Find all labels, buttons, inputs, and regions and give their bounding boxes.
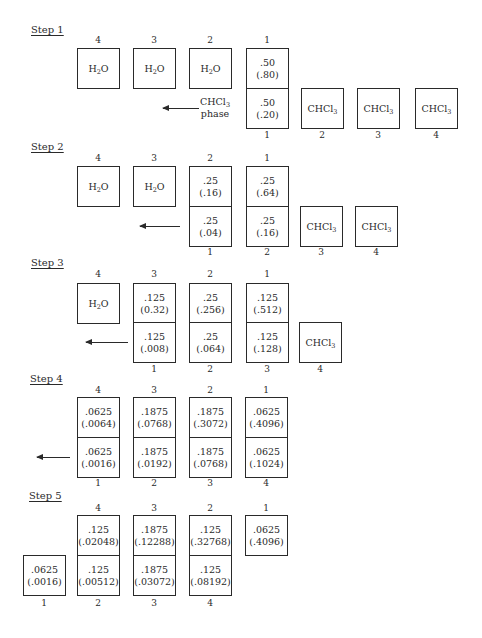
fraction-value: .0625 <box>85 406 112 418</box>
upper-phase-cell: .50(.80) <box>246 48 289 89</box>
tube-number-bottom: 4 <box>310 364 330 374</box>
weighted-value: (.20) <box>256 109 279 121</box>
solvent-name: H2O <box>88 181 108 193</box>
tube-number-bottom: 1 <box>34 598 54 608</box>
lower-phase-cell: .25(.04) <box>189 206 232 247</box>
weighted-value: (.04) <box>199 227 222 239</box>
tube-number-top: 4 <box>88 269 108 279</box>
weighted-value: (.0016) <box>81 458 116 470</box>
tube-number-bottom: 4 <box>366 247 386 257</box>
lower-phase-cell: .1875(.0768) <box>189 437 232 478</box>
fraction-value: .1875 <box>141 406 168 418</box>
weighted-value: (0.32) <box>140 304 169 316</box>
step-label: Step 1 <box>31 24 64 35</box>
fraction-value: .0625 <box>85 446 112 458</box>
upper-phase-cell: .0625(.0064) <box>77 397 120 438</box>
fraction-value: .125 <box>200 564 221 576</box>
tube-number-bottom: 2 <box>144 478 164 488</box>
lower-phase-cell: CHCl3 <box>357 88 400 129</box>
tube-number-bottom: 4 <box>256 478 276 488</box>
fraction-value: .125 <box>88 524 109 536</box>
tube-number-top: 1 <box>257 35 277 45</box>
weighted-value: (.03072) <box>134 576 175 588</box>
tube-number-top: 3 <box>144 35 164 45</box>
upper-phase-cell: .25(.16) <box>189 166 232 207</box>
lower-phase-cell: CHCl3 <box>301 88 344 129</box>
lower-phase-cell: .50(.20) <box>246 88 289 129</box>
tube-number-top: 1 <box>256 385 276 395</box>
upper-phase-cell: H2O <box>133 166 176 207</box>
upper-phase-cell: H2O <box>77 283 120 324</box>
weighted-value: (.0768) <box>193 458 228 470</box>
lower-phase-cell: .25(.064) <box>189 322 232 363</box>
upper-phase-cell: H2O <box>133 48 176 89</box>
lower-phase-cell: .0625(.0016) <box>77 437 120 478</box>
upper-phase-cell: .25(.256) <box>189 283 232 324</box>
fraction-value: .0625 <box>253 524 280 536</box>
fraction-value: .1875 <box>197 406 224 418</box>
tube-number-top: 4 <box>88 385 108 395</box>
solvent-name: CHCl3 <box>305 337 335 349</box>
weighted-value: (.4096) <box>249 418 284 430</box>
fraction-value: .125 <box>257 331 278 343</box>
tube-number-bottom: 2 <box>200 364 220 374</box>
solvent-name: H2O <box>144 63 164 75</box>
upper-phase-cell: .25(.64) <box>246 166 289 207</box>
lower-phase-cell: .1875(.0192) <box>133 437 176 478</box>
weighted-value: (.256) <box>196 304 225 316</box>
lower-phase-cell: CHCl3 <box>299 322 342 363</box>
fraction-value: .0625 <box>253 446 280 458</box>
solvent-name: CHCl3 <box>306 221 336 233</box>
tube-number-top: 1 <box>257 153 277 163</box>
step-label: Step 3 <box>31 257 64 268</box>
fraction-value: .125 <box>200 524 221 536</box>
upper-phase-cell: .0625(.4096) <box>245 397 288 438</box>
fraction-value: .25 <box>203 175 218 187</box>
weighted-value: (.0016) <box>27 576 62 588</box>
fraction-value: .1875 <box>141 524 168 536</box>
tube-number-top: 3 <box>144 385 164 395</box>
weighted-value: (.4096) <box>249 536 284 548</box>
solvent-name: H2O <box>200 63 220 75</box>
tube-number-bottom: 3 <box>144 598 164 608</box>
tube-number-top: 2 <box>200 269 220 279</box>
weighted-value: (.0064) <box>81 418 116 430</box>
upper-phase-cell: H2O <box>189 48 232 89</box>
tube-number-top: 4 <box>88 35 108 45</box>
left-arrow-icon <box>163 108 199 109</box>
weighted-value: (.02048) <box>78 536 119 548</box>
lower-phase-cell: .0625(.1024) <box>245 437 288 478</box>
solvent-name: CHCl3 <box>361 221 391 233</box>
upper-phase-cell: .125(.512) <box>246 283 289 324</box>
phase-label-line1: CHCl3 <box>200 96 230 108</box>
weighted-value: (.3072) <box>193 418 228 430</box>
lower-phase-cell: .125(.00512) <box>77 555 120 596</box>
step-label: Step 5 <box>29 490 62 501</box>
fraction-value: .0625 <box>31 564 58 576</box>
fraction-value: .0625 <box>253 406 280 418</box>
tube-number-bottom: 3 <box>200 478 220 488</box>
lower-phase-cell: .0625(.0016) <box>23 555 66 596</box>
tube-number-bottom: 3 <box>311 247 331 257</box>
tube-number-bottom: 3 <box>368 130 388 140</box>
upper-phase-cell: H2O <box>77 166 120 207</box>
fraction-value: .1875 <box>141 446 168 458</box>
tube-number-top: 1 <box>257 269 277 279</box>
tube-number-top: 4 <box>88 153 108 163</box>
solvent-name: CHCl3 <box>363 103 393 115</box>
left-arrow-icon <box>140 226 180 227</box>
fraction-value: .1875 <box>141 564 168 576</box>
tube-number-bottom: 4 <box>200 598 220 608</box>
tube-number-bottom: 3 <box>257 364 277 374</box>
weighted-value: (.12288) <box>134 536 175 548</box>
solvent-name: CHCl3 <box>421 103 451 115</box>
upper-phase-cell: .0625(.4096) <box>245 515 288 556</box>
tube-number-top: 2 <box>200 385 220 395</box>
weighted-value: (.32768) <box>190 536 231 548</box>
tube-number-bottom: 2 <box>312 130 332 140</box>
step-label: Step 2 <box>31 141 64 152</box>
tube-number-top: 2 <box>200 153 220 163</box>
step-label: Step 4 <box>30 373 63 384</box>
weighted-value: (.128) <box>253 343 282 355</box>
weighted-value: (.064) <box>196 343 225 355</box>
